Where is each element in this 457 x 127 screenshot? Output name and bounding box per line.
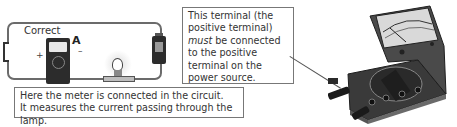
meter-in-circuit-callout: Here the meter is connected in the circu… [14,87,244,118]
callout-line: must be connected [188,35,288,47]
emphasis-must: must [188,35,212,46]
callout-line: terminal on the [188,60,288,72]
positive-terminal-callout: This terminal (the positive terminal) mu… [182,7,294,84]
callout-line: Here the meter is connected in the circu… [20,90,238,102]
switch-icon [3,42,9,62]
ammeter-label: A [72,34,81,47]
ammeter-dial [52,56,65,69]
minus-sign: – [78,46,83,56]
battery-icon [152,36,166,64]
plus-sign: + [36,50,44,60]
callout-line: power source. [188,72,288,84]
battery-cap [155,33,163,36]
circuit-heading: Correct [24,25,61,36]
multimeter-icon [328,2,453,124]
ammeter-icon [46,38,70,84]
callout-line: It measures the current passing through … [20,102,238,127]
battery-label [155,42,163,52]
callout-line: This terminal (the [188,10,288,22]
lamp-base [103,76,135,82]
ammeter-window [49,42,67,52]
callout-line: to the positive [188,47,288,59]
callout-line: positive terminal) [188,22,288,34]
